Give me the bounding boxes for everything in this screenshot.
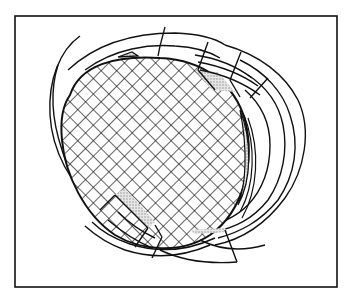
- upper-left-notch: [118, 27, 165, 57]
- diagram-svg: [0, 0, 351, 300]
- diagram-canvas: [0, 0, 351, 300]
